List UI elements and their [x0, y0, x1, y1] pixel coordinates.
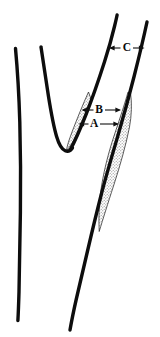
label-a-text: A	[90, 117, 99, 129]
label-c-text: C	[123, 41, 131, 53]
carotid-bifurcation-figure: C B A	[0, 0, 160, 337]
label-b-text: B	[95, 103, 103, 115]
figure-canvas: C B A	[0, 0, 160, 337]
